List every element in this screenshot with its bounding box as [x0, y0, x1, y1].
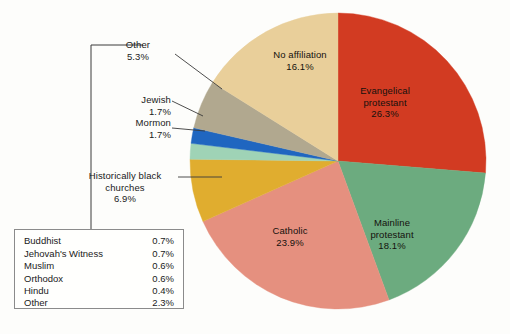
breakdown-row: Jehovah's Witness0.7%: [24, 247, 174, 259]
breakdown-row: Muslim0.6%: [24, 260, 174, 272]
breakdown-table-body: Buddhist0.7%Jehovah's Witness0.7%Muslim0…: [24, 235, 174, 309]
slice-label-mainline-protestant: Mainline protestant 18.1%: [337, 217, 447, 252]
breakdown-row-value: 0.7%: [142, 247, 174, 259]
slice-value: 23.9%: [235, 237, 345, 249]
other-breakdown-legend-box: Buddhist0.7%Jehovah's Witness0.7%Muslim0…: [14, 229, 184, 309]
breakdown-row-value: 2.3%: [142, 297, 174, 309]
breakdown-row: Other2.3%: [24, 297, 174, 309]
slice-value: 18.1%: [337, 240, 447, 252]
slice-label-other: Other 5.3%: [98, 39, 178, 62]
slice-label-line1: Catholic: [235, 225, 345, 237]
slice-label-line2: protestant: [330, 97, 440, 109]
slice-label-line1: Evangelical: [330, 85, 440, 97]
breakdown-row-value: 0.6%: [142, 260, 174, 272]
slice-value: 26.3%: [330, 108, 440, 120]
breakdown-row-name: Hindu: [24, 285, 142, 297]
breakdown-row-value: 0.4%: [142, 285, 174, 297]
pie-chart-figure: Evangelical protestant 26.3% Mainline pr…: [0, 0, 510, 334]
slice-label-jewish: Jewish 1.7%: [93, 94, 171, 117]
slice-label-line1: Mormon: [85, 117, 171, 129]
breakdown-row: Hindu0.4%: [24, 285, 174, 297]
slice-label-line1: Other: [98, 39, 178, 51]
breakdown-row-name: Jehovah's Witness: [24, 247, 142, 259]
slice-label-line1: Jewish: [93, 94, 171, 106]
breakdown-row: Orthodox0.6%: [24, 272, 174, 284]
slice-value: 5.3%: [98, 51, 178, 63]
slice-label-no-affiliation: No affiliation 16.1%: [245, 49, 355, 72]
slice-label-line2: protestant: [337, 229, 447, 241]
breakdown-row-value: 0.7%: [142, 235, 174, 247]
breakdown-row-name: Buddhist: [24, 235, 142, 247]
breakdown-row-name: Other: [24, 297, 142, 309]
slice-label-historically-black-churches: Historically black churches 6.9%: [75, 170, 175, 205]
slice-label-evangelical-protestant: Evangelical protestant 26.3%: [330, 85, 440, 120]
slice-label-catholic: Catholic 23.9%: [235, 225, 345, 248]
breakdown-row-name: Muslim: [24, 260, 142, 272]
slice-value: 1.7%: [93, 106, 171, 118]
slice-value: 1.7%: [85, 129, 171, 141]
slice-value: 6.9%: [75, 193, 175, 205]
slice-label-line2: churches: [75, 182, 175, 194]
breakdown-row-value: 0.6%: [142, 272, 174, 284]
breakdown-table: Buddhist0.7%Jehovah's Witness0.7%Muslim0…: [24, 235, 174, 309]
slice-label-line1: No affiliation: [245, 49, 355, 61]
breakdown-row-name: Orthodox: [24, 272, 142, 284]
breakdown-row: Buddhist0.7%: [24, 235, 174, 247]
slice-label-line1: Mainline: [337, 217, 447, 229]
slice-label-mormon: Mormon 1.7%: [85, 117, 171, 140]
slice-value: 16.1%: [245, 61, 355, 73]
slice-label-line1: Historically black: [75, 170, 175, 182]
